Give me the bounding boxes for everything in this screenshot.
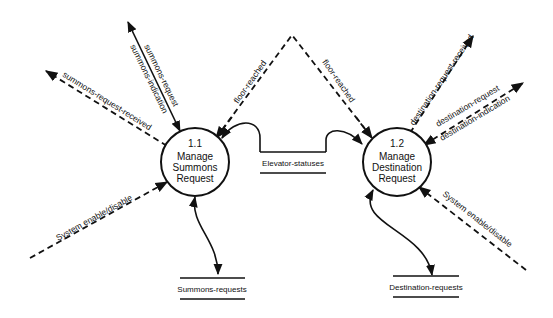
store-elevator-statuses[interactable]: Elevator-statuses [260, 159, 326, 173]
store-summons-requests[interactable]: Summons-requests [177, 278, 246, 299]
store-label: Elevator-statuses [262, 159, 324, 168]
flow-elevator-statuses [222, 123, 362, 152]
flow-label-system-enable-disable-right: System enable/disable [441, 189, 515, 250]
flow-label-floor-reached-left: floor-reached [231, 58, 268, 105]
store-label: Destination-requests [389, 283, 462, 292]
process-label-line3: Request [378, 173, 415, 184]
flow-label-floor-reached-right: floor-reached [320, 57, 357, 104]
flow-label-system-enable-disable-left: System enable/disable [54, 192, 134, 242]
process-number: 1.1 [188, 138, 202, 149]
data-flow-diagram: summons-request summons-indication summo… [0, 0, 553, 318]
flow-summons-requests [194, 197, 218, 274]
process-label-line2: Summons [172, 162, 217, 173]
store-label: Summons-requests [177, 285, 246, 294]
process-label-line1: Manage [177, 151, 214, 162]
flow-floor-reached: floor-reached floor-reached [216, 35, 372, 138]
flow-label-destination-request-received: destination-request-received [407, 32, 475, 127]
process-label-line1: Manage [379, 151, 416, 162]
flow-label-summons-request-received: summons-request-received [61, 69, 154, 132]
flow-system-enable-disable-left: System enable/disable [30, 182, 167, 258]
store-destination-requests[interactable]: Destination-requests [389, 276, 462, 297]
process-1-1[interactable]: 1.1 Manage Summons Request [161, 128, 229, 196]
process-label-line3: Request [176, 173, 213, 184]
process-number: 1.2 [390, 138, 404, 149]
process-1-2[interactable]: 1.2 Manage Destination Request [363, 128, 431, 196]
process-label-line2: Destination [372, 162, 422, 173]
flow-system-enable-disable-right: System enable/disable [419, 187, 526, 270]
flow-destination-requests [370, 190, 432, 275]
